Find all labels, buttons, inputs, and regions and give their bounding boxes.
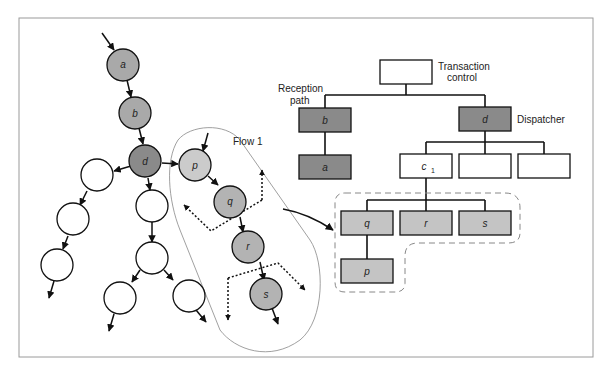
node-d[interactable]: d [129,145,161,177]
transaction-control-caption-1: Transaction [438,61,490,72]
node-s-label: s [264,289,269,300]
node-q-label: q [227,196,233,207]
dispatcher-caption: Dispatcher [517,114,565,125]
box-p-label: p [363,266,370,277]
transaction-control-caption-2: control [447,72,477,83]
box-r[interactable]: r [400,211,452,235]
node-q[interactable]: q [214,186,246,218]
reception-path-caption-2: path [290,95,309,106]
box-q-label: q [364,218,370,229]
box-a[interactable]: a [299,155,351,179]
node-b-label: b [132,108,138,119]
node-s[interactable]: s [250,278,282,310]
node-d-label: d [142,156,148,167]
node-r[interactable]: r [232,231,264,263]
box-s-label: s [483,218,488,229]
box-a-label: a [322,162,328,173]
box-empty-1[interactable] [459,154,511,178]
box-b[interactable]: b [299,108,351,132]
box-c1-label: c [422,161,427,172]
reception-path-caption-1: Reception [278,83,323,94]
node-b[interactable]: b [119,97,151,129]
box-transaction-control[interactable] [380,60,432,84]
box-q[interactable]: q [341,211,393,235]
box-c1-subscript: 1 [431,167,435,174]
node-a-label: a [120,59,126,70]
left-graph-white-nodes [41,159,205,314]
box-d-label: d [482,114,488,125]
box-d-dispatcher[interactable]: d [459,107,511,131]
box-empty-2[interactable] [518,154,570,178]
box-s[interactable]: s [459,211,511,235]
node-p[interactable]: p [179,149,211,181]
box-c1[interactable]: c 1 [400,154,452,178]
flow-1-label: Flow 1 [233,136,263,147]
box-p[interactable]: p [341,259,393,283]
node-a[interactable]: a [107,49,139,81]
box-b-label: b [322,115,328,126]
node-p-label: p [191,160,198,171]
flow-diagram: Flow 1 [0,0,609,374]
